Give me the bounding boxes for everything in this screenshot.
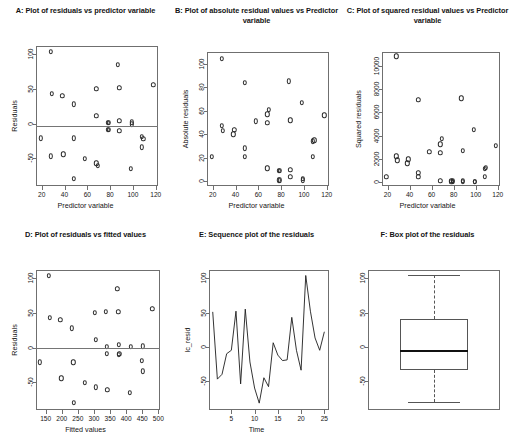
x-tick-label: 10 bbox=[251, 415, 258, 422]
x-tick bbox=[62, 410, 63, 414]
panel-b-title: B: Plot of absolute residual values vs P… bbox=[171, 6, 342, 25]
y-tick-label: 6000 bbox=[372, 102, 379, 122]
y-tick-label: 0 bbox=[358, 343, 365, 351]
panel-d-residuals-vs-fitted: D: Plot of residuals vs fitted values 15… bbox=[0, 224, 171, 448]
x-tick bbox=[324, 410, 325, 414]
panel-b-absolute-residuals: B: Plot of absolute residual values vs P… bbox=[171, 0, 342, 224]
x-tick-label: 40 bbox=[61, 191, 68, 198]
x-tick-label: 20 bbox=[384, 191, 391, 198]
x-tick bbox=[432, 186, 433, 190]
x-tick bbox=[327, 186, 328, 190]
x-tick bbox=[410, 186, 411, 190]
lower-whisker bbox=[434, 370, 435, 402]
x-tick-label: 25 bbox=[321, 415, 328, 422]
x-tick bbox=[78, 410, 79, 414]
x-tick bbox=[110, 410, 111, 414]
panel-f-boxplot: F: Box plot of the residuals -50050100 bbox=[342, 224, 513, 448]
panel-b-x-axis-label: Predictor variable bbox=[171, 201, 342, 210]
y-tick-label: 50 bbox=[26, 307, 33, 319]
y-tick-label: 100 bbox=[26, 270, 33, 286]
x-tick-label: 500 bbox=[153, 415, 164, 422]
y-tick-label: 60 bbox=[197, 105, 204, 117]
x-tick bbox=[278, 410, 279, 414]
x-tick bbox=[87, 186, 88, 190]
panel-c-squared-residuals: C: Plot of squared residual values vs Pr… bbox=[342, 0, 513, 224]
x-tick bbox=[156, 186, 157, 190]
x-tick-label: 200 bbox=[56, 415, 67, 422]
panel-c-x-axis-label: Predictor variable bbox=[342, 201, 513, 210]
x-tick bbox=[258, 186, 259, 190]
x-tick bbox=[476, 186, 477, 190]
x-tick bbox=[142, 410, 143, 414]
y-tick-label: 50 bbox=[199, 306, 206, 318]
panel-e-sequence-plot: E: Sequence plot of the residuals 510152… bbox=[171, 224, 342, 448]
x-tick-label: 15 bbox=[274, 415, 281, 422]
zero-reference-line bbox=[36, 126, 158, 127]
panel-d-x-axis-label: Fitted values bbox=[0, 425, 171, 434]
zero-reference-line bbox=[36, 348, 160, 349]
y-tick-label: 100 bbox=[197, 56, 204, 72]
y-tick-label: 50 bbox=[358, 306, 365, 318]
median-line bbox=[400, 350, 469, 352]
x-tick-label: 120 bbox=[150, 191, 161, 198]
x-tick bbox=[133, 186, 134, 190]
x-tick-label: 100 bbox=[298, 191, 309, 198]
y-tick-label: 0 bbox=[197, 177, 204, 185]
x-tick-label: 100 bbox=[127, 191, 138, 198]
x-tick-label: 350 bbox=[105, 415, 116, 422]
panel-d-y-axis-label: Residuals bbox=[10, 324, 19, 356]
y-tick-label: 8000 bbox=[372, 79, 379, 99]
y-tick-label: -50 bbox=[358, 373, 365, 389]
x-tick-label: 20 bbox=[38, 191, 45, 198]
x-tick bbox=[110, 186, 111, 190]
upper-whisker bbox=[434, 275, 435, 318]
x-tick-label: 150 bbox=[40, 415, 51, 422]
y-tick-label: 4000 bbox=[372, 125, 379, 145]
y-tick-label: 20 bbox=[197, 152, 204, 164]
x-tick-label: 60 bbox=[428, 191, 435, 198]
y-tick-label: -50 bbox=[199, 373, 206, 389]
x-tick-label: 250 bbox=[72, 415, 83, 422]
x-tick-label: 120 bbox=[321, 191, 332, 198]
y-tick-label: 0 bbox=[26, 120, 33, 128]
y-tick-label: 0 bbox=[26, 344, 33, 352]
panel-e-y-axis-label: lc_resid bbox=[183, 328, 192, 353]
y-tick-label: -50 bbox=[26, 150, 33, 166]
x-tick bbox=[94, 410, 95, 414]
x-tick bbox=[255, 410, 256, 414]
y-tick-label: 2000 bbox=[372, 149, 379, 169]
panel-d-title: D: Plot of residuals vs fitted values bbox=[0, 230, 171, 240]
x-tick-label: 80 bbox=[277, 191, 284, 198]
panel-a-y-axis-label: Residuals bbox=[10, 100, 19, 132]
x-tick bbox=[498, 186, 499, 190]
y-tick-label: 80 bbox=[197, 81, 204, 93]
y-tick-label: 40 bbox=[197, 128, 204, 140]
panel-f-title: F: Box plot of the residuals bbox=[342, 230, 513, 240]
upper-whisker-cap bbox=[408, 275, 460, 276]
x-tick bbox=[301, 410, 302, 414]
x-tick-label: 20 bbox=[297, 415, 304, 422]
figure-panel-grid: A: Plot of residuals vs predictor variab… bbox=[0, 0, 513, 448]
x-tick-label: 450 bbox=[137, 415, 148, 422]
y-tick-label: 100 bbox=[358, 270, 365, 286]
x-tick-label: 60 bbox=[84, 191, 91, 198]
x-tick-label: 100 bbox=[470, 191, 481, 198]
x-tick bbox=[126, 410, 127, 414]
x-tick bbox=[304, 186, 305, 190]
y-tick-label: 0 bbox=[199, 343, 206, 351]
x-tick bbox=[42, 186, 43, 190]
y-tick-label: 0 bbox=[372, 178, 379, 186]
panel-a-residuals-vs-predictor: A: Plot of residuals vs predictor variab… bbox=[0, 0, 171, 224]
y-tick-label: -50 bbox=[26, 374, 33, 390]
x-tick bbox=[281, 186, 282, 190]
panel-b-y-axis-label: Absolute residuals bbox=[181, 90, 190, 149]
x-tick bbox=[388, 186, 389, 190]
y-tick-label: 100 bbox=[26, 46, 33, 62]
iqr-box bbox=[400, 319, 469, 370]
x-tick bbox=[46, 410, 47, 414]
x-tick bbox=[236, 186, 237, 190]
x-tick-label: 40 bbox=[232, 191, 239, 198]
x-tick bbox=[213, 186, 214, 190]
panel-d-plot-area bbox=[36, 270, 160, 410]
y-tick-label: 100 bbox=[199, 270, 206, 286]
